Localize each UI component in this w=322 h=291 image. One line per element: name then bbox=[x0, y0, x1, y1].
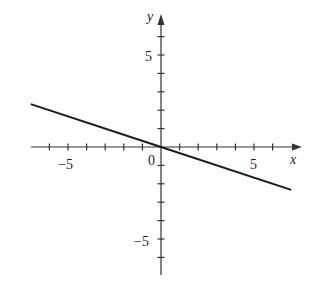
origin-label: 0 bbox=[148, 153, 155, 168]
y-tick-label-pos5: 5 bbox=[145, 49, 152, 64]
x-tick-label-pos5: 5 bbox=[250, 157, 257, 172]
y-tick-label-neg5: −5 bbox=[134, 234, 149, 249]
x-tick-label-neg5: −5 bbox=[58, 157, 73, 172]
y-axis-label: y bbox=[145, 9, 154, 24]
x-axis-arrow-icon bbox=[292, 144, 302, 151]
coordinate-plane: y x 0 −5 5 5 −5 bbox=[0, 0, 322, 291]
x-axis-label: x bbox=[289, 152, 297, 167]
y-axis-arrow-icon bbox=[158, 14, 165, 25]
axes bbox=[31, 14, 302, 275]
